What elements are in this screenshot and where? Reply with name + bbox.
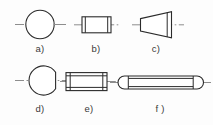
figure-label-d: d) bbox=[36, 103, 45, 114]
figure-label-c: c) bbox=[152, 43, 160, 54]
figure-b-body-outline bbox=[82, 17, 111, 33]
figure-f-rounded-end-pin bbox=[110, 76, 211, 89]
drawing-page: a) b) c) d) e) f ) bbox=[0, 0, 213, 125]
figure-d-flattened-circle-view bbox=[15, 66, 66, 95]
figure-label-e: e) bbox=[85, 103, 94, 114]
figure-label-a: a) bbox=[36, 43, 45, 54]
figure-label-f: f ) bbox=[155, 103, 164, 114]
figure-label-b: b) bbox=[92, 43, 101, 54]
figure-a-circle-outline bbox=[26, 10, 54, 38]
figure-a-circle-view bbox=[15, 10, 66, 38]
figure-e-long-pin bbox=[60, 73, 116, 91]
figure-c-taper-pin bbox=[132, 12, 184, 38]
figure-b-short-pin bbox=[74, 17, 120, 33]
figure-d-flattened-circle-outline bbox=[29, 66, 56, 95]
pin-types-figure: a) b) c) d) e) f ) bbox=[0, 0, 213, 125]
